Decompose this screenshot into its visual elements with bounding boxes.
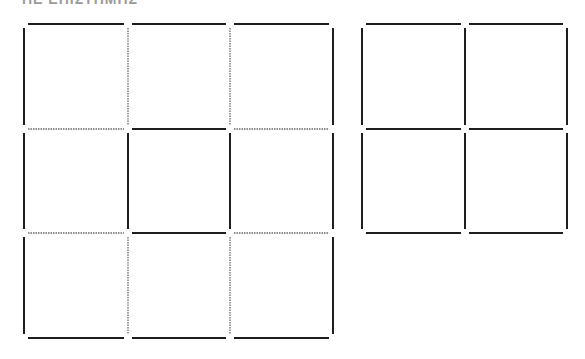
- grid-diagram: [0, 0, 585, 359]
